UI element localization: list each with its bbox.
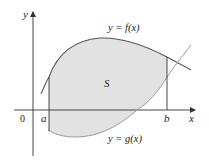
bound-b-label: b (164, 112, 170, 124)
origin-label: 0 (20, 113, 25, 124)
x-axis-label: x (188, 112, 194, 124)
curve-g-label: y = g(x) (107, 133, 142, 145)
y-axis-label: y (22, 8, 28, 20)
region-s-label: S (104, 77, 110, 89)
curve-f-label: y = f(x) (107, 22, 140, 34)
bound-a-label: a (41, 112, 47, 124)
area-between-curves-diagram: y x 0 a b S y = f(x) y = g(x) (0, 0, 209, 167)
